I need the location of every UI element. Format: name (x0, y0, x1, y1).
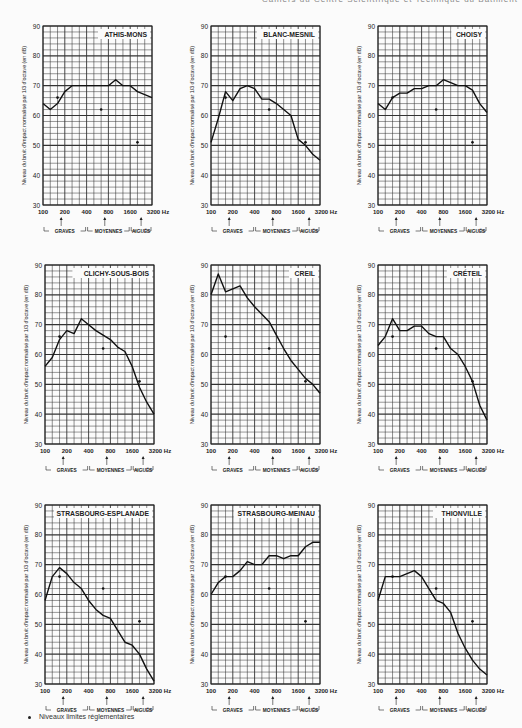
chart-panel: 90807060504030Niveau du bruit d'impact n… (10, 493, 180, 728)
band-label: GRAVES (223, 229, 244, 234)
band-label: AIGUËS (134, 707, 153, 713)
chart-title: CHOISY (456, 31, 483, 38)
chart-svg: 90807060504030Niveau du bruit d'impact n… (176, 493, 346, 728)
x-tick-label: 1600 (292, 448, 306, 454)
band-label: GRAVES (223, 708, 244, 713)
grid (211, 505, 320, 684)
measured-curve (211, 274, 320, 393)
x-tick-label: 800 (103, 209, 114, 215)
y-tick-label: 30 (368, 681, 376, 688)
y-tick-label: 70 (368, 82, 376, 89)
measured-curve (43, 80, 152, 110)
band-label: MOYENNES (97, 468, 125, 473)
x-tick-label: 200 (60, 209, 71, 215)
grid (45, 265, 154, 444)
y-tick-label: 60 (35, 591, 43, 598)
y-tick-label: 40 (368, 411, 376, 418)
x-tick-label: 200 (228, 209, 239, 215)
y-tick-label: 90 (368, 502, 376, 509)
y-tick-label: 60 (201, 591, 209, 598)
limit-marker (391, 575, 394, 578)
y-tick-label: 70 (35, 561, 43, 568)
band-bracket: MOYENNES (423, 696, 465, 713)
x-tick-label: 200 (395, 688, 406, 694)
limit-marker (471, 620, 474, 623)
y-axis-label: Niveau du bruit d'impact normalisé par 1… (189, 525, 195, 664)
chart-panel: 90807060504030Niveau du bruit d'impact n… (176, 14, 346, 254)
y-tick-label: 30 (33, 202, 41, 209)
chart-svg: 90807060504030Niveau du bruit d'impact n… (343, 14, 513, 254)
x-tick-label: 200 (395, 209, 406, 215)
chart-title: CLICHY-SOUS-BOIS (84, 270, 150, 277)
y-tick-label: 50 (35, 381, 43, 388)
x-tick-label: 100 (373, 688, 384, 694)
y-tick-label: 40 (368, 651, 376, 658)
x-tick-label: 800 (271, 688, 282, 694)
x-tick-label: 3200 Hz (315, 209, 337, 215)
y-axis-label: Niveau du bruit d'impact normalisé par 1… (356, 46, 362, 185)
y-tick-label: 80 (35, 291, 43, 298)
band-bracket: GRAVES (379, 696, 421, 713)
y-tick-label: 80 (368, 52, 376, 59)
chart-panel: 90807060504030Niveau du bruit d'impact n… (176, 253, 346, 493)
y-tick-label: 40 (33, 172, 41, 179)
y-tick-label: 80 (35, 531, 43, 538)
x-tick-label: 400 (250, 448, 261, 454)
limit-marker (100, 108, 103, 111)
measured-curve (211, 542, 320, 594)
chart-panel: 90807060504030Niveau du bruit d'impact n… (343, 253, 513, 493)
limit-marker (102, 587, 105, 590)
y-tick-label: 60 (368, 591, 376, 598)
band-label: MOYENNES (263, 468, 291, 473)
chart-title: STRASBOURG-ESPLANADE (56, 510, 149, 517)
x-tick-label: 800 (438, 688, 449, 694)
band-bracket: AIGUËS (131, 217, 151, 234)
page-header: Cahiers du Centre Scientifique et Techni… (262, 0, 518, 4)
limit-marker (304, 141, 307, 144)
x-tick-label: 800 (438, 209, 449, 215)
limit-marker (224, 335, 227, 338)
band-label: AIGUËS (134, 467, 153, 473)
measured-curve (211, 86, 320, 161)
y-tick-label: 50 (201, 142, 209, 149)
y-tick-label: 90 (201, 502, 209, 509)
band-label: GRAVES (223, 468, 244, 473)
x-tick-label: 100 (206, 448, 217, 454)
y-tick-label: 70 (33, 82, 41, 89)
legend: Niveaux limites réglementaires (28, 713, 134, 720)
chart-panel: 90807060504030Niveau du bruit d'impact n… (176, 493, 346, 728)
chart-title: CREIL (295, 270, 315, 277)
band-label: MOYENNES (263, 708, 291, 713)
y-tick-label: 30 (35, 441, 43, 448)
band-bracket: GRAVES (379, 456, 421, 473)
x-tick-label: 100 (206, 688, 217, 694)
y-axis-label: Niveau du bruit d'impact normalisé par 1… (189, 285, 195, 424)
y-tick-label: 50 (368, 142, 376, 149)
band-bracket: GRAVES (46, 696, 88, 713)
band-bracket: AIGUËS (133, 456, 153, 473)
chart-svg: 90807060504030Niveau du bruit d'impact n… (343, 493, 513, 728)
band-label: MOYENNES (430, 229, 458, 234)
band-label: GRAVES (57, 468, 78, 473)
band-label: MOYENNES (95, 229, 123, 234)
band-bracket: MOYENNES (88, 217, 130, 234)
band-label: GRAVES (390, 229, 411, 234)
x-tick-label: 3200 Hz (482, 448, 504, 454)
x-tick-label: 200 (62, 448, 73, 454)
y-tick-label: 70 (368, 561, 376, 568)
y-tick-label: 80 (368, 531, 376, 538)
measured-curve (378, 319, 487, 420)
chart-svg: 90807060504030Niveau du bruit d'impact n… (343, 253, 513, 493)
grid (43, 26, 152, 205)
x-tick-label: 400 (417, 448, 428, 454)
band-label: GRAVES (55, 229, 76, 234)
y-tick-label: 60 (201, 351, 209, 358)
chart-panel: 90807060504030Niveau du bruit d'impact n… (10, 253, 180, 493)
y-tick-label: 30 (201, 681, 209, 688)
chart-title: ATHIS-MONS (104, 31, 147, 38)
x-tick-label: 400 (417, 209, 428, 215)
y-tick-label: 80 (368, 291, 376, 298)
band-bracket: GRAVES (379, 217, 421, 234)
limit-marker (471, 141, 474, 144)
chart-svg: 90807060504030Niveau du bruit d'impact n… (10, 253, 180, 493)
